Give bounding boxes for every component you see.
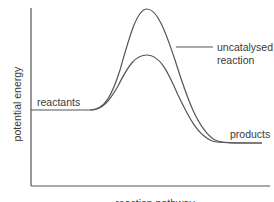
y-axis-label: potential energy	[11, 59, 23, 149]
uncatalysed-curve	[31, 9, 262, 143]
products-label: products	[230, 128, 270, 140]
uncatalysed-label-line2: reaction	[217, 54, 254, 66]
uncatalysed-label-line1: uncatalysed	[217, 41, 273, 53]
x-axis-label: reaction pathway	[100, 197, 210, 202]
reactants-label: reactants	[37, 96, 80, 108]
